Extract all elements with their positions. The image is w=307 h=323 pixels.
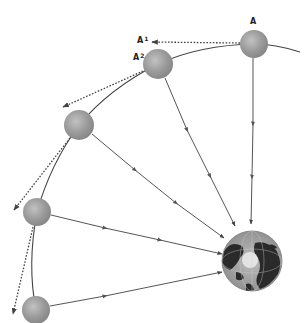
label-A1: A1 [137,37,148,45]
satellite-4 [23,198,51,226]
label-A: A [250,18,256,26]
label-A1-sup: 1 [144,35,148,42]
gravity-vector-A2 [165,78,235,226]
label-A2-base: A [133,53,139,62]
gravity-vectors [50,58,253,306]
gravity-vector-P5 [50,272,222,306]
label-A2: A2 [133,54,144,62]
label-A1-base: A [137,36,143,45]
gravity-vector-P3 [92,134,224,238]
earth-globe [222,231,282,292]
orbit-diagram: A A1 A2 [0,0,307,323]
gravity-vector-P4 [51,215,222,254]
gravity-vector-A [251,58,253,224]
label-A2-sup: 2 [140,52,144,59]
satellite-5 [22,296,50,323]
velocity-vector-A [152,42,240,43]
velocity-vector-A2 [63,71,143,107]
satellite-A [240,30,268,58]
satellite-A2 [143,49,173,79]
satellite-3 [64,110,94,140]
